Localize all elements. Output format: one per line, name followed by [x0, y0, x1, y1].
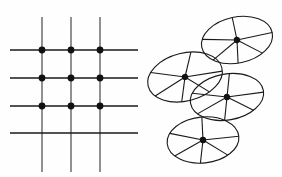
ellipse-right-middle-spoke-6 [223, 74, 233, 97]
ellipse-right-middle-spoke-3 [221, 97, 231, 120]
ellipse-right-middle-center-dot [223, 93, 230, 100]
lattice-point-2 [68, 47, 75, 54]
ellipse-top-right-spoke-6 [232, 18, 237, 40]
ellipse-left-middle-spoke-1 [185, 68, 222, 80]
ellipse-bottom-spoke-4 [173, 140, 204, 156]
figure-canvas [0, 0, 282, 177]
lattice-point-9 [97, 103, 104, 110]
ellipse-left-middle-spoke-5 [151, 65, 185, 85]
lattice-point-7 [39, 103, 46, 110]
lattice-point-8 [68, 103, 75, 110]
ellipse-left-middle-spoke-6 [179, 52, 196, 77]
grid-panel [10, 17, 138, 172]
ellipse-bottom-center-dot [199, 136, 206, 143]
ellipse-left-middle-spoke-2 [185, 72, 209, 97]
ellipse-bottom-spoke-6 [201, 117, 205, 140]
lattice-point-1 [39, 47, 46, 54]
ellipse-right-middle-spoke-4 [195, 97, 229, 114]
ellipse-bottom-spoke-1 [203, 136, 239, 140]
ellipse-top-right-spoke-1 [237, 33, 272, 40]
lattice-point-5 [68, 75, 75, 82]
lattice-point-3 [97, 47, 104, 54]
ellipse-bottom-spoke-2 [203, 138, 228, 158]
ellipse-bottom [165, 113, 241, 166]
ellipse-right-middle-spoke-1 [227, 91, 264, 99]
ellipse-top-right [197, 10, 277, 70]
ellipse-top-right-spoke-3 [233, 40, 241, 63]
ellipse-left-middle [142, 45, 227, 110]
ellipse-left-middle-center-dot [181, 73, 189, 81]
figure-page: 夕 夕 丿 这 地 球 上 的 每 个 人 都 在 不 断 地 ... [0, 0, 282, 177]
lattice-point-4 [39, 75, 46, 82]
ellipse-panel [142, 10, 277, 167]
ellipse-bottom-spoke-3 [198, 140, 205, 163]
lattice-point-6 [97, 75, 104, 82]
ellipse-bottom-spoke-5 [170, 130, 203, 143]
